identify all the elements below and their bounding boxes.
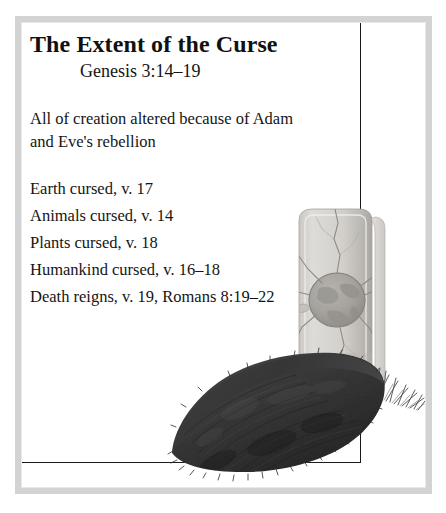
- list-item: Animals cursed, v. 14: [30, 202, 350, 229]
- tombstone-side: [367, 217, 385, 383]
- vertical-rule: [360, 23, 361, 463]
- grass-tufts: [358, 363, 425, 410]
- list-item: Earth cursed, v. 17: [30, 175, 350, 202]
- text-block: The Extent of the Curse Genesis 3:14–19 …: [30, 31, 350, 310]
- list-item: Death reigns, v. 19, Romans 8:19–22: [30, 283, 350, 310]
- lead-paragraph: All of creation altered because of Adam …: [30, 107, 320, 153]
- scripture-reference: Genesis 3:14–19: [30, 60, 350, 82]
- page-title: The Extent of the Curse: [30, 31, 350, 57]
- list-item: Humankind cursed, v. 16–18: [30, 256, 350, 283]
- horizontal-rule: [22, 462, 361, 463]
- mound-body: [172, 353, 385, 472]
- slide-canvas: The Extent of the Curse Genesis 3:14–19 …: [22, 23, 425, 487]
- points-list: Earth cursed, v. 17 Animals cursed, v. 1…: [30, 175, 350, 310]
- list-item: Plants cursed, v. 18: [30, 229, 350, 256]
- slide-root: The Extent of the Curse Genesis 3:14–19 …: [0, 0, 446, 513]
- grass-tufts-fine: [360, 368, 424, 410]
